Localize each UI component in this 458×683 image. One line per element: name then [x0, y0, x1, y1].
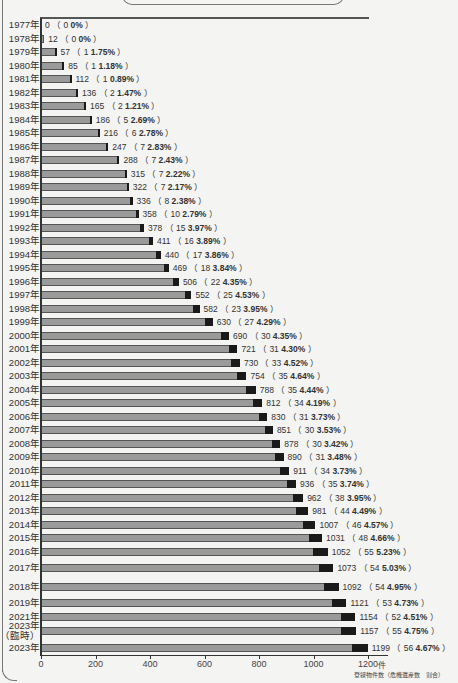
value-percent: 3.73%: [332, 466, 356, 476]
x-axis-unit: 件: [378, 659, 386, 670]
value-danger: 31: [315, 452, 324, 462]
year-label: 2018年: [9, 581, 40, 593]
value-danger: 55: [392, 626, 401, 636]
value-percent: 5.03%: [382, 563, 406, 573]
value-label: 440 （ 17 3.86% ）: [165, 249, 240, 261]
paren-open: （: [162, 223, 176, 233]
value-total: 721: [241, 344, 255, 354]
paren-open: （: [179, 250, 193, 260]
chart-row: 1989年322 （ 7 2.17% ）: [0, 181, 458, 193]
value-danger: 35: [288, 385, 297, 395]
chart-row: 2001年721 （ 31 4.30% ）: [0, 343, 458, 355]
value-percent: 4.51%: [403, 612, 427, 622]
paren-close: ）: [123, 61, 134, 71]
paren-close: ）: [155, 115, 166, 125]
value-label: 506 （ 22 4.35% ）: [183, 276, 258, 288]
chart-row: 2012年962 （ 38 3.95% ）: [0, 492, 458, 504]
value-danger: 56: [404, 643, 413, 653]
value-total: 730: [244, 358, 258, 368]
bar-in-danger: [156, 251, 161, 259]
value-label: 788 （ 35 4.44% ）: [260, 384, 335, 396]
value-total: 506: [183, 277, 197, 287]
value-percent: 3.48%: [327, 452, 351, 462]
value-percent: 4.29%: [256, 317, 280, 327]
paren-close: ）: [330, 398, 341, 408]
bar-in-danger: [76, 89, 78, 97]
value-percent: 3.74%: [340, 479, 364, 489]
bar-in-danger: [164, 264, 169, 272]
bar-registered: [41, 644, 368, 652]
paren-close: ）: [141, 88, 152, 98]
value-total: 890: [288, 452, 302, 462]
value-danger: 18: [201, 263, 210, 273]
year-label: 1989年: [9, 181, 40, 193]
value-total: 630: [217, 317, 231, 327]
value-total: 788: [260, 385, 274, 395]
paren-close: ）: [297, 331, 308, 341]
value-percent: 2.79%: [182, 209, 206, 219]
value-percent: 2.38%: [172, 196, 196, 206]
value-total: 358: [143, 209, 157, 219]
bar-registered: [41, 156, 119, 164]
bar-in-danger: [70, 75, 72, 83]
bar-registered: [41, 627, 356, 635]
chart-row: 1990年336 （ 8 2.38% ）: [0, 195, 458, 207]
year-label: 2017年: [9, 562, 40, 574]
paren-close: ）: [163, 128, 174, 138]
bar-registered: [41, 386, 256, 394]
value-percent: 4.67%: [416, 643, 440, 653]
paren-close: ）: [83, 20, 94, 30]
chart-row: 1979年57 （ 1 1.75% ）: [0, 46, 458, 58]
chart-row: 2023年1199 （ 56 4.67% ）: [0, 642, 458, 654]
bar-in-danger: [275, 453, 283, 461]
paren-close: ）: [411, 582, 422, 592]
year-label: 1988年: [9, 168, 40, 180]
value-total: 12: [48, 34, 57, 44]
paren-close: ）: [149, 101, 160, 111]
chart-row: 1983年165 （ 2 1.21% ）: [0, 100, 458, 112]
year-label: 1978年: [9, 33, 40, 45]
value-percent: 4.35%: [273, 331, 297, 341]
value-total: 112: [76, 74, 90, 84]
value-danger: 46: [352, 520, 361, 530]
paren-close: ）: [428, 626, 439, 636]
bar-in-danger: [272, 440, 280, 448]
value-danger: 22: [211, 277, 220, 287]
value-percent: 1.18%: [98, 61, 122, 71]
paren-open: （: [145, 169, 159, 179]
year-label: 1987年: [9, 154, 40, 166]
year-sublabel: （臨時）: [0, 631, 38, 641]
value-label: 911 （ 34 3.73% ）: [293, 465, 368, 477]
bar-in-danger: [136, 210, 139, 218]
value-total: 962: [307, 493, 321, 503]
paren-close: ）: [305, 344, 316, 354]
bar-registered: [41, 548, 328, 556]
bar-in-danger: [253, 399, 262, 407]
year-label: 1980年: [9, 60, 40, 72]
paren-close: ）: [281, 317, 292, 327]
paren-open: （: [89, 74, 103, 84]
year-label: 1977年: [9, 19, 40, 31]
bar-registered: [41, 613, 355, 621]
bar-registered: [41, 359, 240, 367]
chart-row: 1982年136 （ 2 1.47% ）: [0, 87, 458, 99]
value-label: 1121 （ 53 4.73% ）: [350, 597, 429, 609]
year-label: 1986年: [9, 141, 40, 153]
value-percent: 4.35%: [223, 277, 247, 287]
bar-registered: [41, 170, 127, 178]
chart-row: 1993年411 （ 16 3.89% ）: [0, 235, 458, 247]
paren-close: ）: [356, 466, 367, 476]
value-danger: 44: [340, 506, 349, 516]
chart-row: 2018年1092 （ 54 4.95% ）: [0, 581, 458, 593]
value-percent: 2.83%: [147, 142, 171, 152]
value-label: 721 （ 31 4.30% ）: [241, 343, 316, 355]
value-label: 411 （ 16 3.89% ）: [157, 235, 232, 247]
value-percent: 0%: [79, 34, 91, 44]
bar-in-danger: [309, 534, 322, 542]
bar-in-danger: [90, 116, 92, 124]
bar-in-danger: [125, 170, 127, 178]
value-percent: 4.49%: [352, 506, 376, 516]
bar-in-danger: [221, 332, 229, 340]
bar-in-danger: [149, 237, 153, 245]
year-label: 2023年: [9, 642, 40, 654]
